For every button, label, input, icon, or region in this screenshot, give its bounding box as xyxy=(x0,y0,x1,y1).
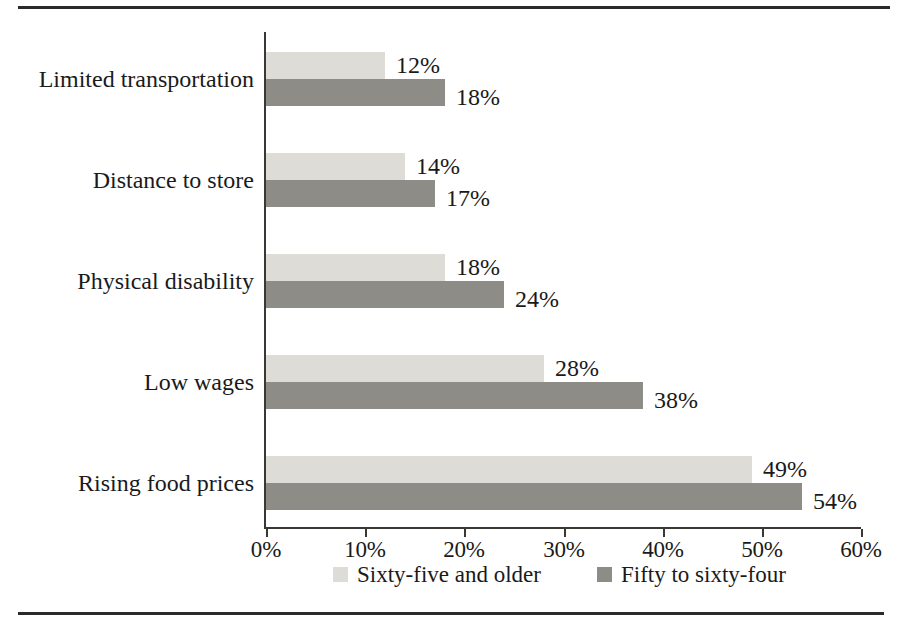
bar-group: Distance to store14%17% xyxy=(0,153,899,207)
bar-value-label: 17% xyxy=(446,186,490,210)
x-axis-tick xyxy=(663,529,665,537)
x-axis-tick-label: 30% xyxy=(543,538,585,561)
x-axis-tick-label: 50% xyxy=(741,538,783,561)
bar-sixty-five-and-older xyxy=(266,456,752,483)
x-axis-tick xyxy=(365,529,367,537)
bar-group: Physical disability18%24% xyxy=(0,254,899,308)
bar-value-label: 18% xyxy=(456,255,500,279)
category-label: Limited transportation xyxy=(39,67,254,91)
bar-value-label: 54% xyxy=(813,489,857,513)
bar-value-label: 12% xyxy=(396,53,440,77)
x-axis-tick-label: 20% xyxy=(443,538,485,561)
legend-item[interactable]: Fifty to sixty-four xyxy=(597,563,786,586)
legend-label: Sixty-five and older xyxy=(357,563,541,586)
legend-swatch-icon xyxy=(597,567,612,582)
x-axis-tick-label: 60% xyxy=(840,538,882,561)
plot-area: Limited transportation12%18%Distance to … xyxy=(0,0,899,628)
x-axis-tick xyxy=(762,529,764,537)
legend-label: Fifty to sixty-four xyxy=(621,563,786,586)
x-axis-tick-label: 10% xyxy=(344,538,386,561)
category-label: Low wages xyxy=(144,370,254,394)
x-axis-tick-label: 40% xyxy=(642,538,684,561)
chart-legend: Sixty-five and olderFifty to sixty-four xyxy=(0,563,899,595)
bar-fifty-to-sixty-four xyxy=(266,483,802,510)
bar-value-label: 24% xyxy=(515,287,559,311)
bar-fifty-to-sixty-four xyxy=(266,180,435,207)
x-axis-line xyxy=(264,527,861,529)
bar-sixty-five-and-older xyxy=(266,153,405,180)
bar-group: Limited transportation12%18% xyxy=(0,52,899,106)
bar-sixty-five-and-older xyxy=(266,52,385,79)
bar-value-label: 14% xyxy=(416,154,460,178)
x-axis-tick xyxy=(464,529,466,537)
category-label: Physical disability xyxy=(77,269,254,293)
legend-swatch-icon xyxy=(333,567,348,582)
bar-sixty-five-and-older xyxy=(266,355,544,382)
x-axis-tick xyxy=(861,529,863,537)
category-label: Rising food prices xyxy=(78,471,254,495)
x-axis-tick-label: 0% xyxy=(251,538,281,561)
bar-value-label: 28% xyxy=(555,356,599,380)
x-axis-tick xyxy=(564,529,566,537)
legend-item[interactable]: Sixty-five and older xyxy=(333,563,541,586)
bar-group: Low wages28%38% xyxy=(0,355,899,409)
bar-fifty-to-sixty-four xyxy=(266,79,445,106)
bar-value-label: 38% xyxy=(654,388,698,412)
x-axis-tick xyxy=(266,529,268,537)
category-label: Distance to store xyxy=(93,168,254,192)
bar-value-label: 18% xyxy=(456,85,500,109)
bar-fifty-to-sixty-four xyxy=(266,382,643,409)
figure: Limited transportation12%18%Distance to … xyxy=(0,0,899,628)
bar-fifty-to-sixty-four xyxy=(266,281,504,308)
bar-sixty-five-and-older xyxy=(266,254,445,281)
bar-value-label: 49% xyxy=(763,457,807,481)
bar-group: Rising food prices49%54% xyxy=(0,456,899,510)
